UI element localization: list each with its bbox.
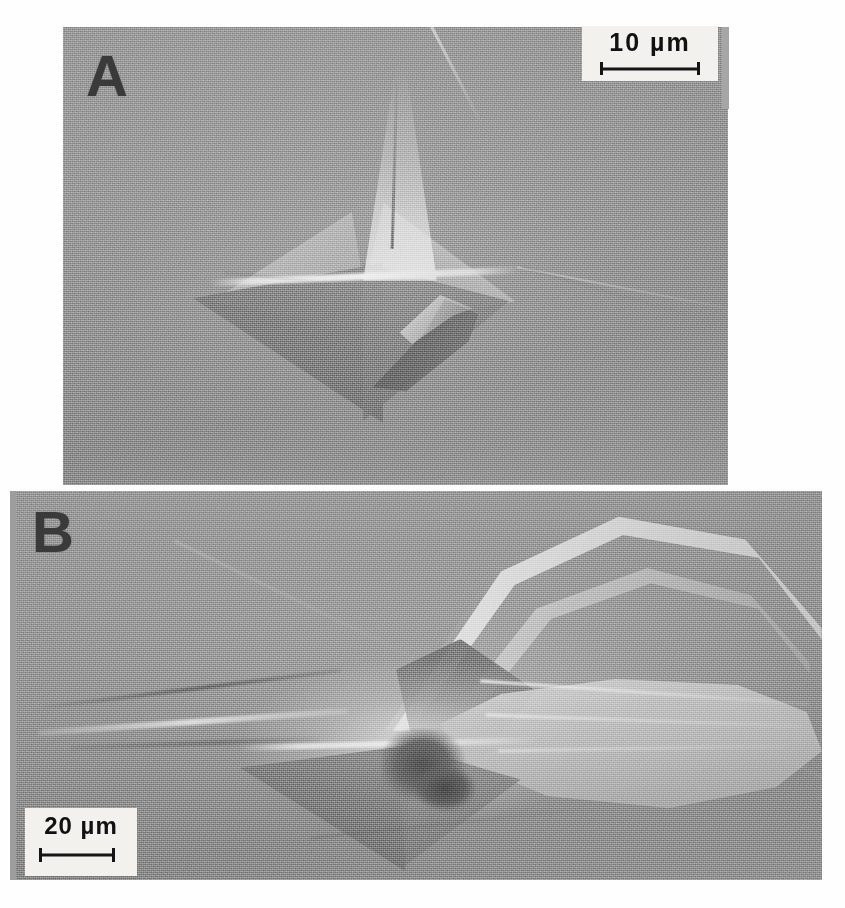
scalebar-cap-left [600,62,603,75]
panel-b-scalebar-line [39,848,115,862]
panel-a-scalebar-line [600,62,700,75]
panel-a-right-margin-strip [722,27,729,109]
scalebar-cap-left [39,848,42,862]
panel-b-scalebar-box: 20 µm [25,808,137,876]
figure-root: A 10 µm B [0,0,845,908]
panel-b-left-margin-strip [10,491,16,880]
panel-a-scalebar-box: 10 µm [582,26,718,81]
panel-a-letter: A [86,47,128,105]
indent-core-inner [414,765,476,811]
panel-a-scalebar-label: 10 µm [582,28,718,57]
panel-b-scalebar-label: 20 µm [25,812,137,840]
scalebar-bar [39,854,115,857]
scalebar-bar [600,67,700,70]
scalebar-cap-right [112,848,115,862]
scalebar-cap-right [697,62,700,75]
panel-a-micrograph: A [63,27,728,485]
panel-b-letter: B [32,503,74,561]
